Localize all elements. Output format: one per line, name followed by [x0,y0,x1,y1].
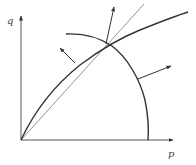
concave-frontier-curve [21,12,188,140]
normal-arrow-left [60,48,75,63]
ray-from-origin [21,4,144,140]
p-axis-label: p [168,148,175,159]
normal-arrow-right [138,66,171,79]
q-axis-label: q [7,15,13,26]
circular-arc [66,34,148,140]
diagram-canvas: q p [0,0,196,165]
